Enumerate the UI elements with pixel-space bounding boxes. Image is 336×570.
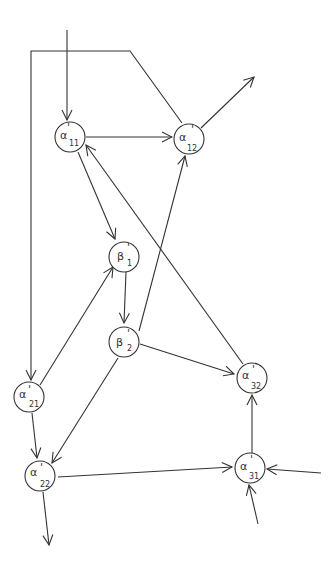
node-a22: α ' 22: [25, 461, 55, 491]
node-b2: β ' 2: [109, 327, 139, 357]
svg-text:β: β: [117, 250, 124, 263]
svg-text:α: α: [30, 466, 37, 479]
edge-b2-a22: [52, 358, 118, 463]
edge-a12-output: [201, 77, 254, 128]
svg-text:': ': [127, 241, 130, 254]
svg-text:22: 22: [40, 480, 50, 489]
svg-text:11: 11: [69, 139, 79, 148]
edge-a11-b1: [78, 152, 115, 239]
svg-text:': ': [28, 383, 31, 396]
svg-text:': ': [191, 123, 194, 136]
node-a21: α ' 21: [14, 382, 44, 412]
svg-text:1: 1: [127, 259, 132, 268]
svg-text:21: 21: [29, 400, 39, 409]
edge-a21-b1: [40, 267, 113, 385]
edges: [31, 30, 321, 545]
edge-a12-a21-loop: [31, 51, 182, 380]
edge-b1-b2: [124, 272, 126, 323]
edge-b2-a32: [140, 344, 234, 374]
svg-text:31: 31: [249, 472, 259, 481]
svg-text:2: 2: [127, 344, 132, 353]
svg-text:': ': [127, 327, 130, 340]
svg-text:32: 32: [251, 382, 261, 391]
svg-text:12: 12: [187, 144, 197, 153]
svg-text:': ': [40, 461, 43, 474]
svg-text:': ': [67, 121, 70, 134]
node-a31: α ' 31: [235, 453, 265, 483]
svg-text:α: α: [240, 460, 247, 473]
node-a11: α ' 11: [55, 121, 85, 152]
edge-a21-a22: [32, 413, 37, 458]
svg-text:': ': [250, 453, 253, 466]
svg-text:α: α: [179, 131, 186, 144]
flow-diagram: α ' 11 α ' 12 β ' 1 β ' 2 α ' 21 α ' 22 …: [0, 0, 336, 570]
node-a12: α ' 12: [174, 123, 204, 154]
svg-text:α: α: [19, 388, 26, 401]
svg-text:α: α: [242, 369, 249, 382]
node-b1: β ' 1: [109, 241, 139, 272]
edge-b2-a12: [139, 156, 185, 331]
svg-text:β: β: [116, 336, 123, 349]
edge-a22-a31: [58, 467, 232, 477]
svg-text:': ': [252, 363, 255, 376]
edge-input-bottom-a31: [249, 485, 258, 524]
edge-input-right-a31: [267, 469, 321, 473]
edge-a22-output: [43, 492, 49, 545]
node-a32: α ' 32: [237, 363, 267, 393]
